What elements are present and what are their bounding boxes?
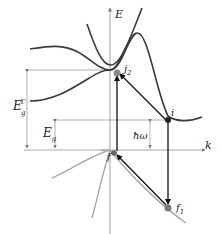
photon-energy-label: ħω bbox=[133, 131, 148, 141]
heavy-hole-band bbox=[52, 150, 110, 178]
point-f-label: f bbox=[107, 152, 111, 162]
i-to-j2-arrow bbox=[120, 74, 166, 120]
upper-band bbox=[30, 33, 202, 121]
valence-bands bbox=[52, 150, 186, 223]
point-f1-label: f1 bbox=[176, 203, 184, 213]
conduction-bands bbox=[30, 8, 202, 121]
point-j2-label: j2 bbox=[124, 64, 132, 74]
point-i-label: i bbox=[171, 108, 174, 118]
f1-to-f-arrow bbox=[117, 155, 166, 205]
point-j2 bbox=[114, 70, 121, 77]
indirect-gap-label: Eg bbox=[43, 127, 56, 139]
k-axis-label: k bbox=[205, 140, 212, 151]
second-band bbox=[30, 33, 136, 101]
point-f bbox=[111, 150, 117, 156]
gamma-gap-label: EΓg bbox=[13, 100, 27, 112]
point-f1 bbox=[165, 205, 172, 212]
energy-axis-label: E bbox=[115, 9, 123, 20]
band-diagram bbox=[0, 0, 222, 234]
